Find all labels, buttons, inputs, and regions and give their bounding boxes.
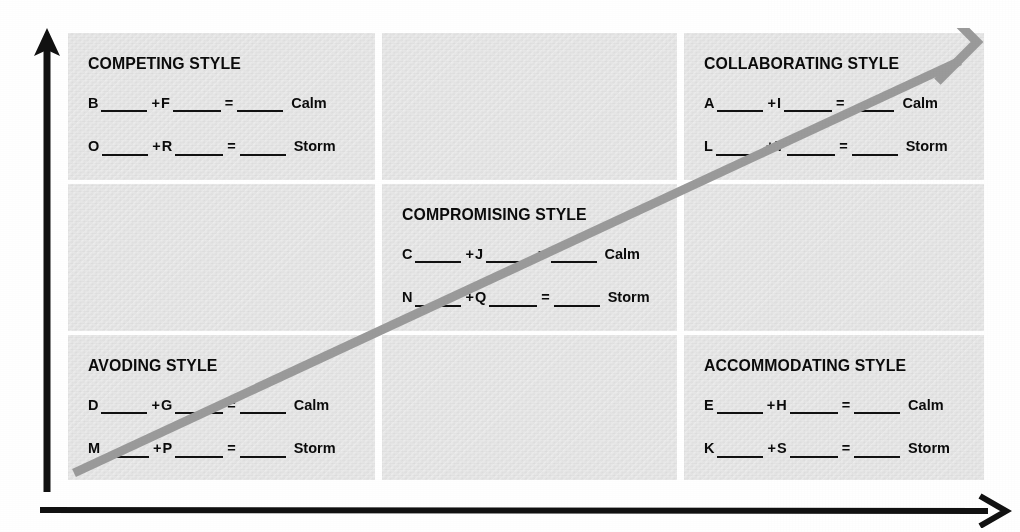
equation-right-letter: T	[775, 139, 784, 156]
grid-cell-accommodating[interactable]: ACCOMMODATING STYLE E + H = Calm K + S	[684, 335, 984, 480]
grid-cell-avoiding[interactable]: AVODING STYLE D + G = Calm M + P	[68, 335, 375, 480]
grid-cell-compromising[interactable]: COMPROMISING STYLE C + J = Calm N + Q	[382, 184, 677, 331]
equation-blank-2[interactable]	[790, 443, 838, 458]
equals-operator: =	[842, 398, 850, 415]
equation-blank-1[interactable]	[717, 399, 763, 414]
cell-title: COLLABORATING STYLE	[704, 55, 959, 72]
equation-blank-3[interactable]	[852, 141, 898, 156]
equation-result-label: Calm	[908, 398, 943, 415]
equation-blank-2[interactable]	[173, 97, 221, 112]
equation-left-letter: M	[88, 441, 100, 458]
plus-operator: +	[151, 96, 159, 113]
equation-left-letter: C	[402, 247, 412, 264]
plus-operator: +	[151, 398, 159, 415]
cell-title: AVODING STYLE	[88, 357, 350, 374]
grid-cell-collaborating[interactable]: COLLABORATING STYLE A + I = Calm L + T	[684, 33, 984, 180]
equation-blank-3[interactable]	[240, 141, 286, 156]
equation-left-letter: D	[88, 398, 98, 415]
equation-row-storm: M + P = Storm	[88, 441, 361, 458]
equation-row-calm: A + I = Calm	[704, 96, 970, 113]
equation-left-letter: A	[704, 96, 714, 113]
equation-result-label: Calm	[902, 96, 937, 113]
equation-right-letter: H	[776, 398, 786, 415]
plus-operator: +	[465, 290, 473, 307]
equation-result-label: Storm	[608, 290, 650, 307]
equation-blank-1[interactable]	[101, 399, 147, 414]
equation-row-calm: C + J = Calm	[402, 247, 663, 264]
equation-blank-3[interactable]	[848, 97, 894, 112]
equation-blank-1[interactable]	[102, 141, 148, 156]
equals-operator: =	[225, 96, 233, 113]
plus-operator: +	[767, 96, 775, 113]
equation-result-label: Calm	[291, 96, 326, 113]
grid-cell-empty-middle-left[interactable]	[68, 184, 375, 331]
conflict-styles-grid: COMPETING STYLE B + F = Calm O + R	[68, 33, 985, 480]
plus-operator: +	[152, 139, 160, 156]
equation-blank-2[interactable]	[787, 141, 835, 156]
equation-blank-2[interactable]	[489, 292, 537, 307]
equation-right-letter: G	[161, 398, 172, 415]
equation-blank-3[interactable]	[551, 248, 597, 263]
equation-row-storm: N + Q = Storm	[402, 290, 663, 307]
equation-blank-2[interactable]	[175, 141, 223, 156]
equation-row-storm: L + T = Storm	[704, 139, 970, 156]
grid-cell-empty-middle-right[interactable]	[684, 184, 984, 331]
worksheet-page: COMPETING STYLE B + F = Calm O + R	[0, 0, 1020, 532]
equation-result-label: Storm	[908, 441, 950, 458]
equals-operator: =	[227, 139, 235, 156]
cell-title: ACCOMMODATING STYLE	[704, 357, 959, 374]
equation-result-label: Storm	[906, 139, 948, 156]
equation-right-letter: R	[162, 139, 172, 156]
equation-blank-3[interactable]	[554, 292, 600, 307]
equation-blank-2[interactable]	[790, 399, 838, 414]
cell-title: COMPROMISING STYLE	[402, 206, 653, 223]
equation-result-label: Calm	[605, 247, 640, 264]
grid-cell-competing[interactable]: COMPETING STYLE B + F = Calm O + R	[68, 33, 375, 180]
equation-row-storm: K + S = Storm	[704, 441, 970, 458]
equation-blank-3[interactable]	[854, 443, 900, 458]
equation-result-label: Storm	[294, 441, 336, 458]
equation-blank-1[interactable]	[415, 248, 461, 263]
equation-left-letter: E	[704, 398, 714, 415]
horizontal-axis-arrow	[26, 488, 1018, 528]
equation-row-storm: O + R = Storm	[88, 139, 361, 156]
plus-operator: +	[767, 441, 775, 458]
equation-left-letter: B	[88, 96, 98, 113]
equation-blank-2[interactable]	[486, 248, 534, 263]
equation-result-label: Calm	[294, 398, 329, 415]
equation-blank-2[interactable]	[175, 443, 223, 458]
equation-blank-2[interactable]	[784, 97, 832, 112]
equation-left-letter: K	[704, 441, 714, 458]
equation-blank-2[interactable]	[175, 399, 223, 414]
equation-row-calm: E + H = Calm	[704, 398, 970, 415]
equals-operator: =	[538, 247, 546, 264]
equation-right-letter: P	[163, 441, 173, 458]
equation-blank-1[interactable]	[717, 97, 763, 112]
equation-blank-3[interactable]	[854, 399, 900, 414]
plus-operator: +	[465, 247, 473, 264]
equation-left-letter: N	[402, 290, 412, 307]
equation-row-calm: D + G = Calm	[88, 398, 361, 415]
equation-right-letter: F	[161, 96, 170, 113]
equation-left-letter: L	[704, 139, 713, 156]
equation-right-letter: I	[777, 96, 781, 113]
equation-blank-1[interactable]	[716, 141, 762, 156]
equation-right-letter: S	[777, 441, 787, 458]
grid-cell-empty-bottom-center[interactable]	[382, 335, 677, 480]
equation-right-letter: J	[475, 247, 483, 264]
equation-blank-3[interactable]	[237, 97, 283, 112]
equation-blank-3[interactable]	[240, 443, 286, 458]
equation-blank-1[interactable]	[415, 292, 461, 307]
equation-blank-1[interactable]	[717, 443, 763, 458]
equals-operator: =	[227, 398, 235, 415]
equals-operator: =	[227, 441, 235, 458]
equals-operator: =	[842, 441, 850, 458]
plus-operator: +	[153, 441, 161, 458]
grid-cell-empty-top-center[interactable]	[382, 33, 677, 180]
plus-operator: +	[766, 139, 774, 156]
plus-operator: +	[767, 398, 775, 415]
equation-right-letter: Q	[475, 290, 486, 307]
equation-blank-1[interactable]	[101, 97, 147, 112]
equation-blank-1[interactable]	[103, 443, 149, 458]
equation-blank-3[interactable]	[240, 399, 286, 414]
